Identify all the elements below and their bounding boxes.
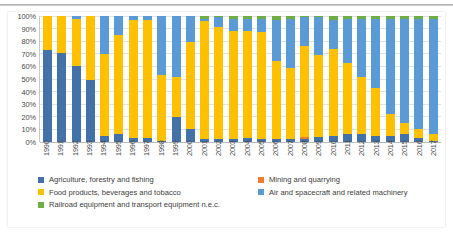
bar-stack[interactable] — [243, 16, 252, 142]
plot-area: 0%10%20%30%40%50%60%70%80%90%100% — [8, 16, 445, 158]
bar-stack[interactable] — [343, 16, 352, 142]
bar-stack[interactable] — [200, 16, 209, 142]
bar-series-container — [40, 16, 441, 142]
bar-stack[interactable] — [229, 16, 238, 142]
bar-stack[interactable] — [129, 16, 138, 142]
y-axis-tick-label: 10% — [22, 125, 37, 134]
legend-swatch-icon — [258, 189, 264, 195]
x-axis-tick-label: 2007 — [286, 140, 295, 172]
bar-stack[interactable] — [314, 16, 323, 142]
legend-item-food-products: Food products, beverages and tobacco — [38, 188, 258, 197]
legend-swatch-icon — [258, 177, 264, 183]
bar-stack[interactable] — [386, 16, 395, 142]
bar-segment — [172, 16, 181, 76]
bar-segment — [86, 16, 95, 80]
x-axis-tick-label: 1993 — [85, 140, 94, 172]
bar-stack[interactable] — [143, 16, 152, 142]
bar-segment — [243, 19, 252, 32]
x-axis-tick-label: 2014 — [386, 140, 395, 172]
bar-segment — [129, 20, 138, 138]
bar-segment — [314, 17, 323, 55]
x-axis-tick-label: 1990 — [42, 140, 51, 172]
bar-segment — [257, 19, 266, 33]
bar-stack[interactable] — [72, 16, 81, 142]
y-axis-tick-label: 0% — [26, 138, 36, 147]
legend-label: Railroad equipment and transport equipme… — [49, 200, 220, 209]
bar-stack[interactable] — [214, 16, 223, 142]
x-axis-tick-label: 1994 — [99, 140, 108, 172]
bar-stack[interactable] — [300, 16, 309, 142]
chart-legend: Agriculture, forestry and fishing Mining… — [38, 175, 438, 213]
bar-segment — [72, 66, 81, 142]
bar-segment — [229, 31, 238, 139]
bar-segment — [214, 17, 223, 27]
legend-row: Food products, beverages and tobacco Air… — [38, 188, 438, 197]
x-axis-tick-label: 1999 — [171, 140, 180, 172]
bar-stack[interactable] — [414, 16, 423, 142]
bar-segment — [186, 16, 195, 42]
bar-stack[interactable] — [329, 16, 338, 142]
bar-segment — [272, 20, 281, 62]
bar-segment — [343, 63, 352, 135]
x-axis-tick-label: 2006 — [271, 140, 280, 172]
y-axis-tick-label: 60% — [22, 62, 37, 71]
bar-stack[interactable] — [114, 16, 123, 142]
bar-segment — [257, 32, 266, 139]
bar-segment — [329, 49, 338, 136]
x-axis-tick-label: 2017 — [429, 140, 438, 172]
bar-segment — [143, 20, 152, 138]
x-axis-tick-label: 2005 — [257, 140, 266, 172]
bar-segment — [72, 19, 81, 67]
y-axis-tick-label: 20% — [22, 112, 37, 121]
bar-segment — [414, 129, 423, 138]
bar-stack[interactable] — [286, 16, 295, 142]
bar-stack[interactable] — [57, 16, 66, 142]
bar-stack[interactable] — [186, 16, 195, 142]
bar-segment — [86, 80, 95, 142]
x-axis-tick-label: 2008 — [300, 140, 309, 172]
x-axis-tick-label: 2015 — [400, 140, 409, 172]
bar-stack[interactable] — [157, 16, 166, 142]
bar-stack[interactable] — [43, 16, 52, 142]
bar-segment — [100, 16, 109, 54]
plot-canvas — [39, 16, 441, 142]
bar-segment — [243, 31, 252, 138]
bar-segment — [57, 53, 66, 142]
x-axis-tick-label: 2000 — [185, 140, 194, 172]
x-axis-tick-label: 2013 — [372, 140, 381, 172]
bar-stack[interactable] — [86, 16, 95, 142]
bar-segment — [371, 88, 380, 136]
bar-segment — [43, 16, 52, 50]
y-axis-tick-label: 90% — [22, 24, 37, 33]
bar-segment — [43, 50, 52, 142]
bar-segment — [357, 19, 366, 77]
bar-stack[interactable] — [400, 16, 409, 142]
x-axis-tick-label: 2011 — [343, 140, 352, 172]
legend-item-mining: Mining and quarrying — [258, 175, 340, 184]
x-axis-tick-label: 2010 — [329, 140, 338, 172]
x-axis-tick-label: 1995 — [114, 140, 123, 172]
bar-stack[interactable] — [357, 16, 366, 142]
y-axis-tick-label: 40% — [22, 87, 37, 96]
bar-stack[interactable] — [429, 16, 438, 142]
legend-item-agriculture: Agriculture, forestry and fishing — [38, 175, 258, 184]
bar-segment — [400, 123, 409, 134]
x-axis-tick-label: 2009 — [314, 140, 323, 172]
bar-segment — [429, 19, 438, 135]
bar-segment — [157, 16, 166, 75]
bar-stack[interactable] — [100, 16, 109, 142]
legend-item-railroad: Railroad equipment and transport equipme… — [38, 200, 258, 209]
bar-segment — [200, 21, 209, 139]
legend-label: Air and spacecraft and related machinery — [269, 188, 407, 197]
bar-segment — [286, 68, 295, 140]
x-axis-labels: 1990199119921993199419951996199719981999… — [39, 140, 441, 172]
bar-stack[interactable] — [172, 16, 181, 142]
bar-segment — [300, 46, 309, 137]
bar-stack[interactable] — [272, 16, 281, 142]
bar-stack[interactable] — [371, 16, 380, 142]
bar-segment — [329, 20, 338, 49]
legend-label: Food products, beverages and tobacco — [49, 188, 181, 197]
bar-stack[interactable] — [257, 16, 266, 142]
x-axis-tick-label: 2016 — [415, 140, 424, 172]
bar-segment — [114, 35, 123, 135]
